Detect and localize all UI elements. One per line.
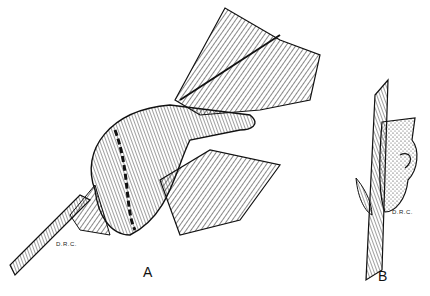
- ink-drawing: [0, 0, 430, 296]
- panel-label-b: B: [378, 268, 387, 284]
- panel-b-drawing: [356, 80, 417, 280]
- artist-signature-b: D.R.C.: [392, 209, 413, 215]
- panel-label-a: A: [143, 264, 152, 280]
- panel-a-drawing: [10, 8, 320, 275]
- artist-signature-a: D.R.C.: [56, 241, 77, 247]
- illustration: D.R.C. D.R.C. A B: [0, 0, 430, 296]
